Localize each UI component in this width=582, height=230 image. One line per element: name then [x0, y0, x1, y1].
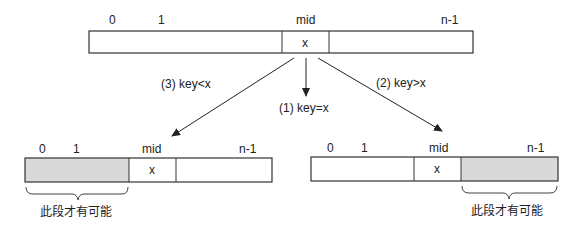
right-index-0: 0	[327, 141, 334, 155]
branch-greater-label: (2) key>x	[376, 76, 426, 90]
branch-less-label: (3) key<x	[161, 77, 211, 91]
left-index-last: n-1	[239, 142, 257, 156]
right-index-1: 1	[361, 141, 368, 155]
right-brace-text: 此段才有可能	[471, 203, 543, 218]
top-array: 0 1 mid n-1 x	[89, 13, 473, 53]
top-mid-value: x	[302, 36, 308, 50]
left-mid-value: x	[149, 163, 155, 177]
binary-search-diagram: 0 1 mid n-1 x (3) key<x (1) key=x (2) ke…	[0, 0, 582, 230]
top-index-mid: mid	[296, 13, 315, 27]
top-index-last: n-1	[441, 13, 459, 27]
left-brace-text: 此段才有可能	[40, 204, 112, 219]
arrow-greater	[318, 58, 442, 131]
right-shaded-segment	[461, 157, 558, 181]
left-index-0: 0	[39, 142, 46, 156]
top-index-1: 1	[158, 13, 165, 27]
left-array: 0 1 mid n-1 x 此段才有可能	[25, 142, 272, 219]
right-mid-value: x	[434, 162, 440, 176]
left-shaded-segment	[25, 158, 129, 182]
right-index-last: n-1	[527, 141, 545, 155]
top-index-0: 0	[109, 13, 116, 27]
left-index-mid: mid	[142, 142, 161, 156]
right-array: 0 1 mid n-1 x 此段才有可能	[311, 141, 558, 218]
branch-equal-label: (1) key=x	[279, 101, 329, 115]
right-index-mid: mid	[429, 141, 448, 155]
right-brace	[462, 186, 557, 199]
branch-arrows: (3) key<x (1) key=x (2) key>x	[161, 58, 442, 136]
arrow-less	[172, 58, 294, 136]
left-index-1: 1	[73, 142, 80, 156]
left-brace	[26, 187, 128, 200]
